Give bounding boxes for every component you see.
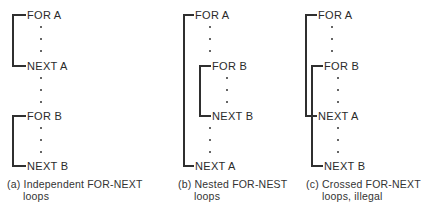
stmt-for-a: FOR A bbox=[318, 9, 353, 21]
loop-b-bracket-top bbox=[311, 65, 323, 67]
caption-line-1: (c) Crossed FOR-NEXT bbox=[306, 178, 421, 190]
stmt-for-b: FOR B bbox=[324, 60, 359, 72]
stmt-next-b: NEXT B bbox=[324, 160, 365, 172]
caption-line-2: loops, illegal bbox=[322, 190, 383, 202]
loop-b-bracket-bottom bbox=[311, 165, 323, 167]
ellipsis-dot bbox=[331, 26, 333, 28]
ellipsis-dot bbox=[337, 101, 339, 103]
ellipsis-dot bbox=[337, 89, 339, 91]
ellipsis-dot bbox=[337, 127, 339, 129]
ellipsis-dot bbox=[331, 50, 333, 52]
loop-a-bracket-vertical bbox=[305, 14, 307, 117]
ellipsis-dot bbox=[337, 151, 339, 153]
ellipsis-dot bbox=[331, 38, 333, 40]
stmt-next-a: NEXT A bbox=[318, 110, 359, 122]
ellipsis-dot bbox=[337, 77, 339, 79]
loop-b-bracket-vertical bbox=[311, 65, 313, 167]
ellipsis-dot bbox=[337, 139, 339, 141]
loop-a-bracket-top bbox=[305, 14, 317, 16]
